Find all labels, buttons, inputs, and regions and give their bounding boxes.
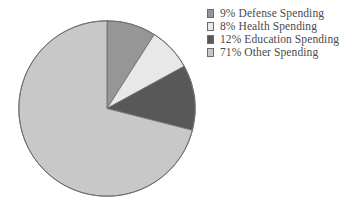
pie-chart-svg — [18, 20, 196, 197]
legend-label-defense: 9% Defense Spending — [220, 7, 324, 20]
legend-swatch-other-icon — [207, 48, 214, 57]
legend-label-education: 12% Education Spending — [220, 33, 339, 46]
legend-swatch-defense-icon — [207, 9, 214, 18]
legend-label-other: 71% Other Spending — [220, 46, 318, 59]
legend-item-education: 12% Education Spending — [207, 33, 355, 46]
legend-item-defense: 9% Defense Spending — [207, 7, 355, 20]
chart-legend: 9% Defense Spending 8% Health Spending 1… — [207, 7, 355, 59]
pie-chart-plot — [18, 20, 196, 197]
legend-label-health: 8% Health Spending — [220, 20, 317, 33]
pie-chart-figure: 9% Defense Spending 8% Health Spending 1… — [0, 0, 357, 217]
legend-item-health: 8% Health Spending — [207, 20, 355, 33]
pie-slice-group — [19, 21, 195, 196]
legend-item-other: 71% Other Spending — [207, 46, 355, 59]
legend-swatch-health-icon — [207, 22, 214, 31]
legend-swatch-education-icon — [207, 35, 214, 44]
